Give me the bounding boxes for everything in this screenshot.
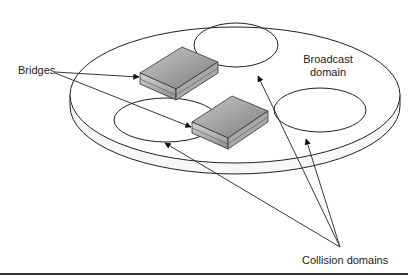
bridges-label: Bridges bbox=[18, 64, 55, 77]
broadcast-label-line1: Broadcast bbox=[296, 53, 360, 66]
broadcast-label-line2: domain bbox=[296, 66, 360, 79]
network-diagram bbox=[0, 0, 408, 279]
collision-domains-label: Collision domains bbox=[302, 254, 388, 267]
broadcast-domain-label: Broadcast domain bbox=[296, 53, 360, 79]
bottom-rule bbox=[0, 273, 408, 275]
